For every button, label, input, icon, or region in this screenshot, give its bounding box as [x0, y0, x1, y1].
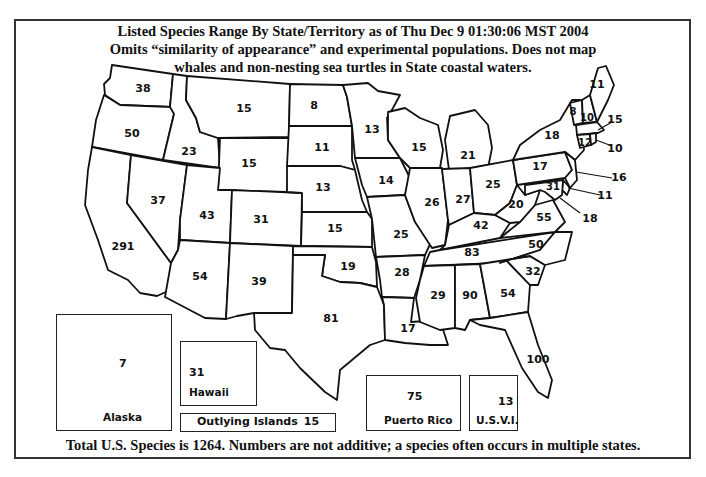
label-nh: 10	[580, 112, 594, 123]
footer-note: Total U.S. Species is 1264. Numbers are …	[0, 437, 706, 454]
hawaii-name: Hawaii	[189, 386, 229, 398]
label-me: 11	[589, 78, 604, 91]
inset-usvi[interactable]: 13 U.S.V.I.	[469, 375, 518, 431]
label-dc: 18	[582, 212, 597, 225]
label-oh: 25	[485, 178, 500, 191]
label-ar: 28	[394, 266, 409, 279]
label-ct: 12	[578, 137, 592, 148]
label-wi: 15	[411, 141, 426, 154]
label-pa: 17	[532, 160, 547, 173]
label-fl: 100	[527, 353, 550, 366]
label-co: 31	[253, 213, 268, 226]
label-wy: 15	[241, 157, 256, 170]
label-ut: 43	[199, 209, 214, 222]
label-mi: 21	[460, 149, 475, 162]
outlying-name: Outlying Islands	[197, 415, 298, 428]
usvi-value: 13	[498, 395, 513, 408]
state-north-dakota[interactable]	[289, 84, 352, 126]
outlying-value: 15	[304, 415, 319, 428]
label-nm: 39	[251, 275, 266, 288]
label-ca: 291	[112, 240, 135, 253]
puerto-rico-value: 75	[407, 390, 422, 403]
label-ri: 10	[607, 142, 623, 155]
label-ne: 13	[315, 181, 330, 194]
label-sd: 11	[314, 141, 329, 154]
label-az: 54	[192, 270, 208, 283]
label-tx: 81	[323, 312, 338, 325]
label-ky: 42	[473, 219, 488, 232]
label-tn: 83	[464, 246, 479, 259]
label-id: 23	[181, 145, 196, 158]
label-ia: 14	[378, 174, 394, 187]
label-or: 50	[124, 127, 140, 140]
label-al: 90	[462, 289, 478, 302]
label-va: 55	[536, 211, 551, 224]
label-ms: 29	[430, 289, 445, 302]
label-wa: 38	[135, 82, 150, 95]
label-wv: 20	[508, 198, 524, 211]
inset-outlying-islands[interactable]: Outlying Islands15	[180, 413, 336, 432]
label-ok: 19	[340, 260, 355, 273]
label-de: 11	[597, 189, 612, 202]
inset-puerto-rico[interactable]: 75 Puerto Rico	[366, 375, 461, 431]
leader-de	[568, 188, 600, 195]
label-vt: 8	[570, 106, 577, 117]
label-la: 17	[400, 322, 415, 335]
label-ny: 18	[544, 129, 559, 142]
label-nc: 50	[528, 238, 544, 251]
alaska-name: Alaska	[103, 411, 142, 423]
leader-dc	[560, 198, 580, 213]
label-nd: 8	[310, 99, 318, 112]
alaska-value: 7	[119, 357, 127, 370]
label-nj: 16	[611, 171, 627, 184]
leader-nj	[576, 172, 612, 178]
label-sc: 32	[525, 265, 540, 278]
puerto-rico-name: Puerto Rico	[384, 414, 452, 426]
hawaii-value: 31	[189, 366, 204, 379]
label-mn: 13	[364, 123, 379, 136]
inset-alaska[interactable]: 7 Alaska	[56, 314, 172, 431]
label-ks: 15	[327, 222, 342, 235]
label-mo: 25	[393, 228, 408, 241]
inset-hawaii[interactable]: 31 Hawaii	[180, 341, 257, 406]
label-nv: 37	[150, 194, 165, 207]
label-ma: 15	[607, 113, 622, 126]
usvi-name: U.S.V.I.	[476, 414, 519, 426]
label-md: 31	[546, 181, 560, 192]
label-il: 26	[424, 196, 440, 209]
label-in: 27	[455, 193, 470, 206]
label-mt: 15	[236, 102, 251, 115]
label-ga: 54	[500, 287, 516, 300]
